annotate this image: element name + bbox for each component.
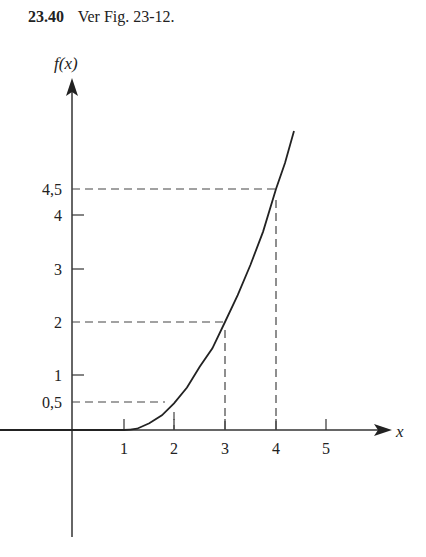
y-axis-label: f(x) <box>54 54 78 73</box>
svg-text:4,5: 4,5 <box>42 181 62 198</box>
svg-text:3: 3 <box>54 261 62 278</box>
svg-text:3: 3 <box>221 440 229 457</box>
reference-lines <box>72 189 276 430</box>
svg-text:5: 5 <box>322 440 330 457</box>
svg-text:4: 4 <box>272 440 280 457</box>
x-axis-label: x <box>395 422 404 441</box>
y-tick-labels: 0,5 1 2 3 4 4,5 <box>42 181 62 411</box>
function-graph: x f(x) 1 2 3 4 5 0,5 1 2 3 4 4,5 <box>0 0 426 557</box>
svg-text:1: 1 <box>120 440 128 457</box>
svg-text:1: 1 <box>54 367 62 384</box>
function-curve <box>0 131 294 430</box>
svg-text:2: 2 <box>54 314 62 331</box>
svg-text:2: 2 <box>170 440 178 457</box>
svg-text:0,5: 0,5 <box>42 394 62 411</box>
y-ticks <box>72 215 84 375</box>
svg-text:4: 4 <box>54 207 62 224</box>
x-tick-labels: 1 2 3 4 5 <box>120 440 330 457</box>
